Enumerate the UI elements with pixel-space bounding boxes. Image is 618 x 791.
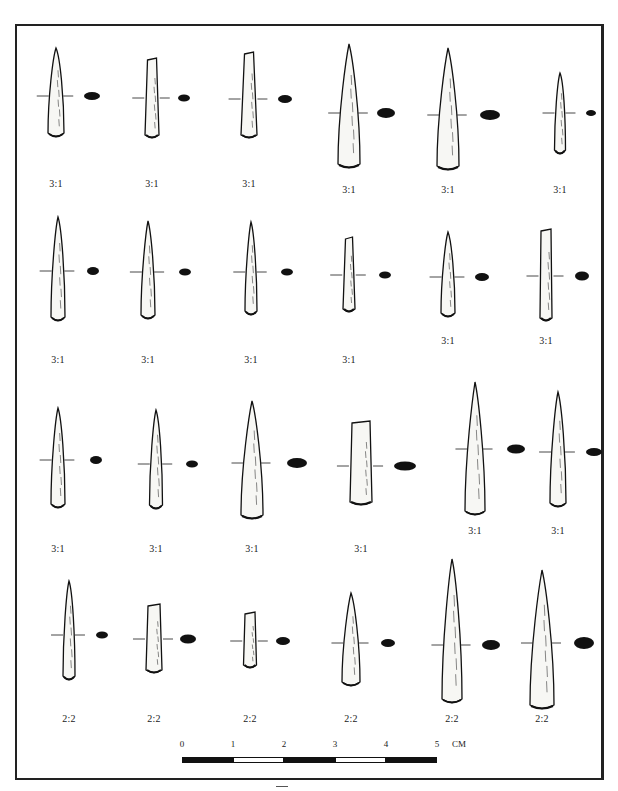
scale-bar-segment xyxy=(335,757,386,763)
bone-point-artifact xyxy=(431,559,500,703)
bone-point-artifact xyxy=(526,229,589,321)
artifact-outline xyxy=(540,229,552,321)
artifact-outline xyxy=(51,217,65,321)
cross-section xyxy=(186,461,198,468)
artifact-outline xyxy=(550,392,566,507)
artifact-outline xyxy=(48,48,64,137)
cross-section xyxy=(475,273,489,281)
cross-section xyxy=(381,639,395,647)
bone-point-artifact xyxy=(337,421,416,505)
cross-section xyxy=(87,267,99,275)
cross-section xyxy=(178,95,190,102)
cross-section xyxy=(507,445,525,454)
scale-ratio-label: 3:1 xyxy=(342,354,355,365)
bone-point-artifact xyxy=(40,408,102,508)
artifact-outline xyxy=(343,237,355,312)
artifact-outline xyxy=(342,593,360,686)
page-mark xyxy=(276,786,288,787)
artifact-outline xyxy=(141,221,155,319)
cross-section xyxy=(586,448,602,456)
bone-point-artifact xyxy=(37,48,100,137)
cross-section xyxy=(276,637,290,645)
bone-point-artifact xyxy=(539,392,602,507)
artifact-outline xyxy=(146,604,162,673)
scale-ratio-label: 3:1 xyxy=(354,543,367,554)
scale-ratio-label: 3:1 xyxy=(342,184,355,195)
bone-point-artifact xyxy=(40,217,99,321)
artifact-outline xyxy=(555,73,566,154)
scale-bar-segment xyxy=(386,757,437,763)
scale-ratio-label: 3:1 xyxy=(145,178,158,189)
scale-tick-label: 5 xyxy=(435,739,440,749)
bone-point-artifact xyxy=(430,232,489,317)
scale-bar-segment xyxy=(284,757,335,763)
bone-point-artifact xyxy=(328,44,395,168)
cross-section xyxy=(482,640,500,650)
scale-ratio-label: 2:2 xyxy=(344,713,357,724)
bone-point-artifact xyxy=(130,221,191,319)
scale-tick-label: 1 xyxy=(231,739,236,749)
scale-ratio-label: 3:1 xyxy=(51,354,64,365)
cross-section xyxy=(574,637,594,649)
scale-bar-segment xyxy=(233,757,284,763)
artifact-outline xyxy=(63,581,75,680)
scale-ratio-label: 2:2 xyxy=(445,713,458,724)
scale-tick-label: 0 xyxy=(180,739,185,749)
artifact-outline xyxy=(145,58,159,138)
scale-tick-label: 3 xyxy=(333,739,338,749)
cross-section xyxy=(379,272,391,279)
cross-section xyxy=(287,458,307,468)
scale-ratio-label: 3:1 xyxy=(553,184,566,195)
scale-tick-label: 4 xyxy=(384,739,389,749)
cross-section xyxy=(575,272,589,281)
artifact-outline xyxy=(441,232,455,317)
bone-point-artifact xyxy=(331,593,395,686)
scale-ratio-label: 2:2 xyxy=(243,713,256,724)
scale-ratio-label: 3:1 xyxy=(441,335,454,346)
cross-section xyxy=(480,110,500,120)
bone-point-artifact xyxy=(543,73,596,154)
cross-section xyxy=(90,456,102,464)
artifact-outline xyxy=(442,559,462,703)
artifact-drawings xyxy=(0,0,618,791)
bone-point-artifact xyxy=(455,382,525,515)
scale-ratio-label: 3:1 xyxy=(49,178,62,189)
artifact-outline xyxy=(350,421,372,505)
bone-point-artifact xyxy=(233,222,293,315)
scale-tick-label: 2 xyxy=(282,739,287,749)
bone-point-artifact xyxy=(230,612,290,668)
scale-ratio-label: 2:2 xyxy=(62,713,75,724)
cross-section xyxy=(96,632,108,639)
artifact-outline xyxy=(437,48,459,170)
scale-ratio-label: 3:1 xyxy=(242,178,255,189)
bone-point-artifact xyxy=(229,52,292,138)
scale-unit-label: CM xyxy=(452,739,466,749)
scale-ratio-label: 3:1 xyxy=(441,184,454,195)
scale-ratio-label: 2:2 xyxy=(147,713,160,724)
bone-point-artifact xyxy=(232,401,307,519)
artifact-outline xyxy=(245,222,257,315)
scale-ratio-label: 3:1 xyxy=(141,354,154,365)
scale-ratio-label: 3:1 xyxy=(468,525,481,536)
artifact-outline xyxy=(241,401,263,519)
bone-point-artifact xyxy=(521,570,594,709)
cross-section xyxy=(84,92,100,100)
scale-ratio-label: 3:1 xyxy=(245,543,258,554)
scale-ratio-label: 3:1 xyxy=(244,354,257,365)
bone-point-artifact xyxy=(138,410,198,509)
bone-point-artifact xyxy=(330,237,391,312)
scale-ratio-label: 3:1 xyxy=(149,543,162,554)
scale-ratio-label: 3:1 xyxy=(539,335,552,346)
scale-ratio-label: 2:2 xyxy=(535,713,548,724)
cross-section xyxy=(278,95,292,103)
cross-section xyxy=(394,462,416,471)
artifact-outline xyxy=(51,408,65,508)
artifact-outline xyxy=(241,52,257,138)
bone-point-artifact xyxy=(133,604,196,673)
cross-section xyxy=(281,269,293,276)
cross-section xyxy=(179,269,191,276)
scale-ratio-label: 3:1 xyxy=(551,525,564,536)
artifact-outline xyxy=(338,44,360,168)
cross-section xyxy=(586,110,596,116)
bone-point-artifact xyxy=(51,581,108,680)
